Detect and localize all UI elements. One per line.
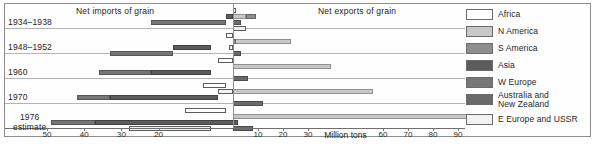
bar-w-europe-row4	[51, 120, 96, 125]
bar-w-europe-row1	[110, 51, 173, 56]
bar-w-europe-row0	[151, 20, 225, 25]
legend-label-line: Africa	[498, 10, 520, 19]
legend-label-e-europe: E Europe and USSR	[498, 115, 578, 124]
legend-label-line: New Zealand	[498, 100, 549, 109]
bar-anz-row2	[233, 76, 248, 81]
row-label-0: 1934–1938	[8, 17, 52, 27]
row-label-1: 1948–1952	[8, 42, 52, 52]
right-side-title: Net exports of grain	[318, 6, 396, 16]
x-tick-label: 60	[378, 130, 387, 139]
legend-label-africa: Africa	[498, 10, 520, 19]
bar-anz-row1	[233, 51, 241, 56]
row-label-line: estimate	[13, 123, 46, 133]
legend-swatch-s-america	[466, 43, 493, 54]
bar-africa-row1	[226, 33, 233, 38]
bar-w-europe-row2	[99, 70, 151, 75]
x-tick-mark	[458, 128, 459, 131]
bar-africa-row2	[218, 58, 233, 63]
x-tick-mark	[47, 128, 48, 131]
bar-asia-row0	[226, 14, 233, 19]
row-label-line: 1970	[8, 92, 28, 102]
row-label-line: 1948–1952	[8, 42, 52, 52]
bar-asia-row1	[173, 45, 210, 50]
x-tick-mark	[159, 128, 160, 131]
row-label-4: 1976estimate	[13, 113, 46, 132]
bar-africa-row4	[185, 108, 226, 113]
bar-n-america-row4	[233, 114, 468, 119]
zero-axis-line	[233, 4, 234, 128]
legend-swatch-africa	[466, 9, 493, 20]
legend-label-s-america: S America	[498, 44, 538, 53]
x-tick-label: 30	[303, 130, 312, 139]
x-tick-label: 40	[80, 130, 89, 139]
bar-e-europe-row3	[218, 89, 233, 94]
x-tick-label: 80	[428, 130, 437, 139]
legend-item-asia[interactable]: Asia	[466, 59, 515, 72]
legend-item-e-europe[interactable]: E Europe and USSR	[466, 113, 578, 126]
row-label-line: 1960	[8, 67, 28, 77]
x-tick-label: 20	[154, 130, 163, 139]
legend-swatch-e-europe	[466, 114, 493, 125]
x-axis-unit-label: Million tons	[324, 130, 367, 140]
row-label-3: 1970	[8, 92, 28, 102]
bar-n-america-row3	[233, 89, 373, 94]
x-tick-label: 10	[253, 130, 262, 139]
bar-anz-row3	[233, 101, 263, 106]
legend-swatch-anz	[466, 94, 493, 105]
legend-item-s-america[interactable]: S America	[466, 42, 538, 55]
legend-label-line: Asia	[498, 61, 515, 70]
legend-label-line: N America	[498, 27, 538, 36]
row-label-line: 1934–1938	[8, 17, 52, 27]
x-tick-mark	[84, 128, 85, 131]
legend-item-anz[interactable]: Australia andNew Zealand	[466, 93, 549, 106]
bar-asia-row2	[151, 70, 211, 75]
legend-item-w-europe[interactable]: W Europe	[466, 76, 537, 89]
legend-label-w-europe: W Europe	[498, 78, 537, 87]
legend-label-n-america: N America	[498, 27, 538, 36]
x-tick-label: 90	[453, 130, 462, 139]
bar-s-america-row0	[246, 14, 256, 19]
legend-swatch-n-america	[466, 26, 493, 37]
bar-n-america-row2	[233, 64, 331, 69]
x-tick-label: 20	[278, 130, 287, 139]
legend-item-n-america[interactable]: N America	[466, 25, 538, 38]
bar-n-america-row1	[233, 39, 291, 44]
bar-asia-row4	[95, 120, 238, 125]
bar-asia-row3	[110, 95, 218, 100]
legend: AfricaN AmericaS AmericaAsiaW EuropeAust…	[466, 5, 591, 133]
x-tick-mark	[283, 128, 284, 131]
x-tick-mark	[308, 128, 309, 131]
x-tick-mark	[408, 128, 409, 131]
legend-label-asia: Asia	[498, 61, 515, 70]
bar-anz-row0	[233, 20, 241, 25]
x-tick-mark	[383, 128, 384, 131]
legend-label-anz: Australia andNew Zealand	[498, 91, 549, 108]
x-tick-mark	[258, 128, 259, 131]
bar-w-europe-row3	[77, 95, 110, 100]
legend-label-line: W Europe	[498, 78, 537, 87]
legend-swatch-asia	[466, 60, 493, 71]
legend-label-line: S America	[498, 44, 538, 53]
x-tick-mark	[433, 128, 434, 131]
legend-swatch-w-europe	[466, 77, 493, 88]
x-tick-mark	[121, 128, 122, 131]
x-axis-line	[5, 128, 465, 129]
legend-label-line: E Europe and USSR	[498, 115, 578, 124]
bar-africa-row3	[203, 83, 225, 88]
bar-n-america-row0	[233, 14, 246, 19]
left-side-title: Net imports of grain	[76, 6, 154, 16]
x-tick-label: 30	[117, 130, 126, 139]
bar-e-europe-row0	[233, 26, 246, 31]
x-tick-label: 70	[403, 130, 412, 139]
legend-item-africa[interactable]: Africa	[466, 8, 520, 21]
chart-page: 5040302010203060708090Million tons Net i…	[0, 0, 596, 144]
row-label-2: 1960	[8, 67, 28, 77]
